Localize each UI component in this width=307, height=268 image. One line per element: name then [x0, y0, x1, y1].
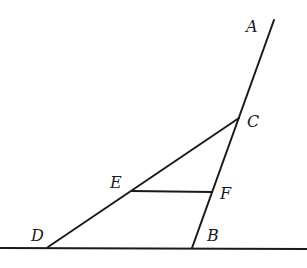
- diagram-svg: A C E F D B: [0, 0, 307, 268]
- line-ab: [192, 20, 274, 248]
- geometry-diagram: A C E F D B: [0, 0, 307, 268]
- label-e: E: [109, 173, 122, 192]
- ground-line: [0, 248, 307, 249]
- segment-ef: [132, 191, 212, 192]
- label-f: F: [219, 184, 232, 203]
- label-a: A: [244, 17, 258, 36]
- label-c: C: [247, 112, 259, 131]
- label-d: D: [30, 226, 44, 245]
- label-b: B: [206, 226, 219, 245]
